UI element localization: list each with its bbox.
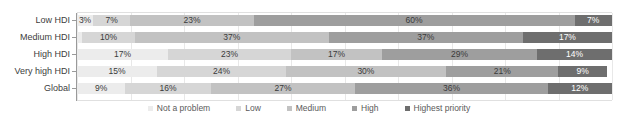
bar-segment: 7%	[93, 15, 130, 26]
segment-value-label: 30%	[357, 67, 374, 76]
bar-segment: 37%	[329, 32, 523, 43]
bar-segment: 37%	[135, 32, 329, 43]
bar-segment: 14%	[537, 49, 612, 60]
axis-tick	[72, 71, 77, 72]
bar-row: 3%7%23%60%7%	[77, 15, 612, 26]
legend-item[interactable]: Medium	[287, 104, 326, 113]
legend-item[interactable]: Low	[236, 104, 261, 113]
segment-value-label: 9%	[576, 67, 588, 76]
segment-value-label: 24%	[213, 67, 230, 76]
legend-item[interactable]: Highest priority	[405, 104, 471, 113]
segment-value-label: 14%	[566, 50, 583, 59]
bar-segment: 29%	[382, 49, 537, 60]
category-label: Very high HDI	[0, 66, 70, 77]
legend-item[interactable]: Not a problem	[148, 104, 210, 113]
segment-value-label: 3%	[79, 16, 91, 25]
legend-label: Not a problem	[157, 104, 210, 113]
category-label: Medium HDI	[0, 32, 70, 43]
bar-segment: 3%	[77, 15, 93, 26]
chart-legend: Not a problemLowMediumHighHighest priori…	[0, 104, 618, 113]
axis-tick	[72, 20, 77, 21]
bar-segment: 21%	[446, 66, 558, 77]
segment-value-label: 16%	[159, 84, 176, 93]
category-axis-labels: Low HDIMedium HDIHigh HDIVery high HDIGl…	[0, 13, 70, 100]
segment-value-label: 23%	[184, 16, 201, 25]
legend-swatch-icon	[236, 106, 241, 111]
segment-value-label: 60%	[406, 16, 423, 25]
axis-tick	[72, 54, 77, 55]
bar-segment: 7%	[575, 15, 612, 26]
legend-swatch-icon	[287, 106, 292, 111]
plot-bottom-rule	[77, 100, 612, 101]
bar-segment: 17%	[291, 49, 382, 60]
bar-segment: 10%	[82, 32, 134, 43]
segment-value-label: 37%	[417, 33, 434, 42]
segment-value-label: 23%	[221, 50, 238, 59]
legend-swatch-icon	[352, 106, 357, 111]
bar-segment: 24%	[157, 66, 285, 77]
segment-value-label: 9%	[95, 84, 107, 93]
bar-row: 10%37%37%17%	[77, 32, 612, 43]
legend-label: Low	[245, 104, 261, 113]
bar-segment: 23%	[168, 49, 291, 60]
bar-rows: 3%7%23%60%7%10%37%37%17%17%23%17%29%14%1…	[77, 13, 612, 100]
segment-value-label: 27%	[274, 84, 291, 93]
bar-segment: 36%	[355, 83, 548, 94]
legend-item[interactable]: High	[352, 104, 378, 113]
segment-value-label: 7%	[587, 16, 599, 25]
stacked-bar-chart: Low HDIMedium HDIHigh HDIVery high HDIGl…	[0, 0, 618, 123]
bar-segment: 23%	[130, 15, 253, 26]
bar-segment: 16%	[125, 83, 211, 94]
axis-tick	[72, 37, 77, 38]
bar-segment: 17%	[77, 49, 168, 60]
segment-value-label: 7%	[106, 16, 118, 25]
gridline	[612, 13, 613, 100]
bar-segment: 9%	[558, 66, 606, 77]
legend-label: High	[361, 104, 378, 113]
bar-row: 15%24%30%21%9%	[77, 66, 612, 77]
axis-tick	[72, 88, 77, 89]
category-label: Global	[0, 83, 70, 94]
segment-value-label: 36%	[443, 84, 460, 93]
segment-value-label: 17%	[114, 50, 131, 59]
bar-row: 17%23%17%29%14%	[77, 49, 612, 60]
legend-label: Medium	[296, 104, 326, 113]
bar-segment: 60%	[254, 15, 575, 26]
legend-swatch-icon	[405, 106, 410, 111]
segment-value-label: 37%	[223, 33, 240, 42]
legend-swatch-icon	[148, 106, 153, 111]
bar-segment: 30%	[286, 66, 447, 77]
segment-value-label: 17%	[328, 50, 345, 59]
category-label: Low HDI	[0, 15, 70, 26]
segment-value-label: 29%	[451, 50, 468, 59]
bar-segment: 9%	[77, 83, 125, 94]
bar-row: 9%16%27%36%12%	[77, 83, 612, 94]
segment-value-label: 15%	[109, 67, 126, 76]
plot-area: 3%7%23%60%7%10%37%37%17%17%23%17%29%14%1…	[77, 13, 612, 100]
bar-segment: 15%	[77, 66, 157, 77]
segment-value-label: 17%	[559, 33, 576, 42]
segment-value-label: 21%	[494, 67, 511, 76]
bar-segment: 12%	[548, 83, 612, 94]
legend-label: Highest priority	[414, 104, 471, 113]
bar-segment: 17%	[523, 32, 612, 43]
segment-value-label: 10%	[100, 33, 117, 42]
segment-value-label: 12%	[571, 84, 588, 93]
category-label: High HDI	[0, 49, 70, 60]
bar-segment: 27%	[211, 83, 355, 94]
